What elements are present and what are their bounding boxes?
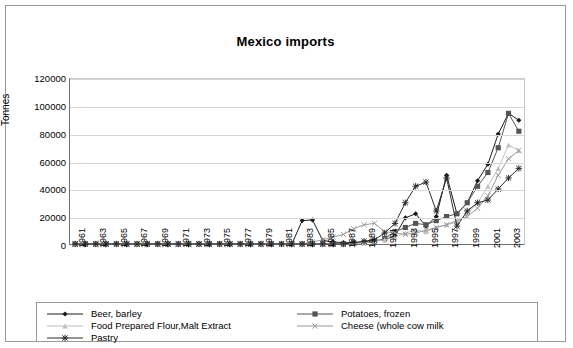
y-tick-label: 120000 [14,74,66,83]
data-point-square [413,221,418,226]
y-tick-label: 40000 [14,185,66,194]
x-tick-label: 1961 [78,228,87,248]
data-point-star [412,183,418,189]
x-tick-label: 2001 [493,228,502,248]
data-point-diamond [475,178,480,183]
data-point-square [496,145,501,150]
data-point-square [403,225,408,230]
data-point-triangle [485,184,490,189]
data-point-cross [475,206,480,211]
data-point-star [62,335,68,341]
data-point-triangle [496,166,501,171]
legend-label: Cheese (whole cow milk [341,320,443,332]
plot-area [69,78,525,245]
data-point-star [505,175,511,181]
x-tick-label: 1963 [99,228,108,248]
data-point-star [402,200,408,206]
data-point-square [475,184,480,189]
gridline [70,135,524,136]
x-tick-label: 1997 [451,228,460,248]
data-point-diamond [62,311,67,316]
x-tick-label: 1985 [327,228,336,248]
data-point-star [433,208,439,214]
data-point-square [516,129,521,134]
gridline [70,218,524,219]
legend-marker-square-icon [295,309,335,319]
series-line [75,113,519,244]
series-layer [70,79,524,244]
data-point-square [506,111,511,116]
x-tick-label: 1991 [389,228,398,248]
x-tick-label: 1977 [244,228,253,248]
y-tick-label: 100000 [14,102,66,111]
gridline [70,79,524,80]
gridline [70,163,524,164]
x-tick-label: 1981 [285,228,294,248]
data-point-star [443,175,449,181]
data-point-star [474,200,480,206]
data-point-cross [506,156,511,161]
y-axis-ticks: 020000400006000080000100000120000 [10,73,66,248]
x-tick-label: 1999 [472,228,481,248]
x-tick-label: 1967 [140,228,149,248]
data-point-star [423,179,429,185]
data-point-square [485,170,490,175]
data-point-square [465,200,470,205]
legend-marker-diamond-icon [45,309,85,319]
data-point-star [392,220,398,226]
legend-marker-star-icon [45,333,85,343]
chart-legend: Beer, barleyPotatoes, frozenFood Prepare… [36,302,538,342]
legend-label: Pastry [91,332,118,344]
chart-title: Mexico imports [6,34,565,49]
data-point-triangle [506,142,511,147]
chart-panel: Mexico imports Tonnes 020000400006000080… [5,5,566,342]
y-tick-label: 0 [14,241,66,250]
gridline [70,190,524,191]
x-tick-label: 1993 [410,228,419,248]
legend-label: Beer, barley [91,308,142,320]
x-tick-label: 1973 [203,228,212,248]
gridline [70,107,524,108]
x-tick-label: 1971 [182,228,191,248]
data-point-star [464,208,470,214]
data-point-star [382,230,388,236]
y-tick-label: 20000 [14,213,66,222]
data-point-square [423,222,428,227]
legend-label: Potatoes, frozen [341,308,410,320]
data-point-cross [496,173,501,178]
x-tick-label: 1975 [223,228,232,248]
x-tick-label: 1965 [120,228,129,248]
x-tick-label: 1989 [368,228,377,248]
series-line [75,113,519,244]
x-tick-label: 1979 [265,228,274,248]
legend-label: Food Prepared Flour,Malt Extract [91,320,231,332]
data-point-star [516,165,522,171]
x-tick-label: 2003 [513,228,522,248]
x-tick-label: 1987 [348,228,357,248]
x-tick-label: 1995 [431,228,440,248]
x-axis-ticks: 1961196319651967196919711973197519771979… [69,246,525,298]
data-point-square [312,311,317,316]
y-tick-label: 80000 [14,130,66,139]
y-tick-label: 60000 [14,158,66,167]
legend-marker-triangle-icon [45,321,85,331]
x-tick-label: 1983 [306,228,315,248]
x-tick-label: 1969 [161,228,170,248]
legend-marker-cross-icon [295,321,335,331]
data-point-star [485,197,491,203]
